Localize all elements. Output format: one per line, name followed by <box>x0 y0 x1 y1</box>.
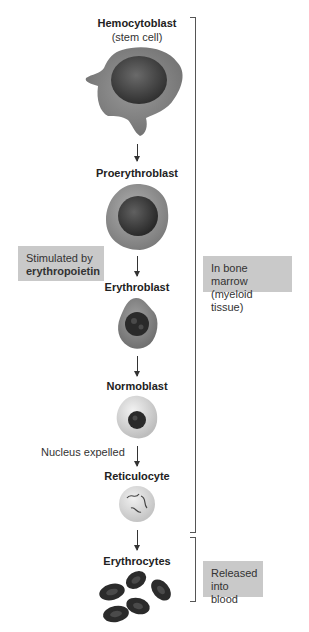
stimulus-line1: Stimulated by <box>26 252 96 265</box>
stimulus-label-box: Stimulated by erythropoietin <box>18 246 104 281</box>
blood-line2: into blood <box>211 580 255 606</box>
nucleus-expelled-note: Nucleus expelled <box>41 446 125 458</box>
erythroblast-cell <box>112 296 162 352</box>
arrow-5 <box>137 530 138 550</box>
reticulocyte-cell <box>117 484 157 524</box>
stimulus-line2: erythropoietin <box>26 265 96 278</box>
hemocytoblast-cell <box>82 44 192 140</box>
stage-title-reticulocyte: Reticulocyte <box>67 470 207 482</box>
erythrocytes-cells <box>96 566 180 626</box>
arrow-3 <box>137 356 138 376</box>
proerythroblast-cell <box>102 182 172 252</box>
normoblast-cell <box>113 394 161 442</box>
blood-bracket <box>190 537 196 602</box>
bone-marrow-bracket <box>190 17 196 533</box>
blood-label-box: Released into blood <box>203 561 263 597</box>
arrow-2 <box>137 256 138 276</box>
marrow-line2: (myeloid tissue) <box>211 288 284 314</box>
stage-title-normoblast: Normoblast <box>67 380 207 392</box>
marrow-line1: In bone marrow <box>211 262 284 288</box>
blood-line1: Released <box>211 567 255 580</box>
stage-title-hemocytoblast: Hemocytoblast <box>67 17 207 29</box>
stage-title-proerythroblast: Proerythroblast <box>67 167 207 179</box>
stage-title-erythroblast: Erythroblast <box>67 281 207 293</box>
arrow-4 <box>137 446 138 466</box>
stage-subtitle-hemocytoblast: (stem cell) <box>67 31 207 43</box>
bone-marrow-label-box: In bone marrow (myeloid tissue) <box>203 256 292 292</box>
arrow-1 <box>137 144 138 161</box>
